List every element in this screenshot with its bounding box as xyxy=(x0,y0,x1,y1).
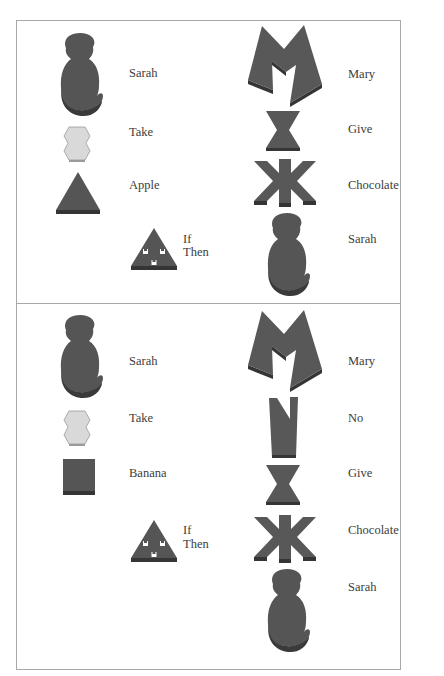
notched-bar-token-icon xyxy=(266,397,300,459)
triangle-token-icon xyxy=(55,171,101,215)
hourglass-token-icon xyxy=(265,110,301,152)
token-label: If xyxy=(183,523,191,538)
token-label: Mary xyxy=(348,354,375,369)
token-label: Give xyxy=(348,466,372,481)
token-label: Take xyxy=(129,411,153,426)
token-label: Apple xyxy=(129,178,160,193)
monkey-token-icon xyxy=(55,314,105,399)
hourglass-token-icon xyxy=(265,464,301,506)
monkey-token-icon xyxy=(55,32,105,117)
monkey-token-icon xyxy=(262,568,312,653)
token-label: Sarah xyxy=(129,66,157,81)
token-label: Chocolate xyxy=(348,178,399,193)
token-label: Sarah xyxy=(129,354,157,369)
m-shape-token-icon xyxy=(246,310,324,392)
token-label: Then xyxy=(183,537,209,552)
conditional-triangle-token-icon xyxy=(130,519,178,563)
hexagon-token-icon xyxy=(62,408,92,448)
square-token-icon xyxy=(62,458,96,496)
token-label: Sarah xyxy=(348,580,376,595)
token-label: Chocolate xyxy=(348,523,399,538)
token-label: Sarah xyxy=(348,232,376,247)
token-label: Give xyxy=(348,122,372,137)
conditional-triangle-token-icon xyxy=(130,227,178,271)
token-label: Banana xyxy=(129,466,166,481)
m-shape-token-icon xyxy=(246,25,324,107)
token-label: Take xyxy=(129,125,153,140)
token-label: No xyxy=(348,411,363,426)
asterisk-token-icon xyxy=(252,514,318,564)
token-label: Mary xyxy=(348,67,375,82)
hexagon-token-icon xyxy=(62,124,92,164)
asterisk-token-icon xyxy=(252,158,318,208)
token-label: Then xyxy=(183,245,209,260)
monkey-token-icon xyxy=(262,212,312,297)
